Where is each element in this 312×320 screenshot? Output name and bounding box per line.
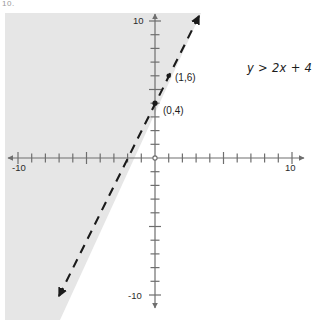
point-label-1-6: (1,6) (175, 73, 196, 83)
y-axis-label-ten: 10 (133, 16, 144, 26)
origin-marker (153, 156, 157, 160)
graph-figure: 10. -10 10 10 -10 (1,6) (0,4) y > 2x + 4 (0, 0, 312, 320)
point-marker-1-6 (166, 74, 171, 79)
inequality-label: y > 2x + 4 (247, 63, 312, 75)
figure-number: 10. (2, 0, 15, 8)
coordinate-plane (0, 0, 312, 320)
point-marker-0-4 (152, 101, 157, 106)
y-axis-label-negative-ten: -10 (128, 291, 142, 301)
x-axis-label-negative-ten: -10 (12, 163, 26, 173)
x-axis-label-ten: 10 (285, 163, 296, 173)
shaded-region (5, 13, 201, 320)
point-label-0-4: (0,4) (163, 106, 184, 116)
